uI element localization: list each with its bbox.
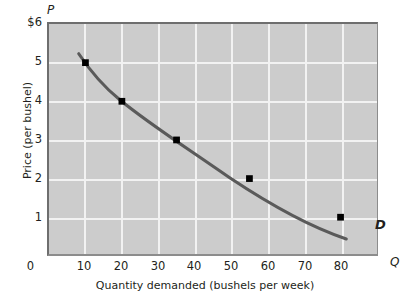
x-tick-label: 40 bbox=[187, 261, 202, 273]
data-point bbox=[173, 137, 180, 144]
x-tick-label: 60 bbox=[261, 261, 276, 273]
x-tick-label: 80 bbox=[334, 261, 349, 273]
x-tick-label: 20 bbox=[114, 261, 129, 273]
demand-curve-figure: P Q $6 5 4 3 2 1 0 10 20 30 40 50 60 70 … bbox=[0, 0, 410, 299]
x-tick-label: 50 bbox=[224, 261, 239, 273]
demand-curve-svg bbox=[49, 24, 377, 256]
data-point bbox=[82, 59, 89, 66]
y-axis-symbol: P bbox=[47, 3, 54, 17]
y-axis-title: Price (per bushel) bbox=[21, 56, 34, 206]
x-axis-symbol: Q bbox=[390, 255, 399, 269]
x-axis-title: Quantity demanded (bushels per week) bbox=[0, 279, 410, 292]
y-tick-label: 4 bbox=[35, 95, 42, 107]
demand-curve-label: D bbox=[375, 217, 386, 232]
y-tick-label: 5 bbox=[35, 56, 42, 68]
x-tick-label: 10 bbox=[77, 261, 92, 273]
y-tick-label: 0 bbox=[27, 261, 34, 273]
x-tick-label: 70 bbox=[298, 261, 313, 273]
data-point bbox=[246, 175, 253, 182]
data-point bbox=[119, 98, 126, 105]
x-tick-label: 30 bbox=[151, 261, 166, 273]
y-tick-label: $6 bbox=[27, 17, 42, 29]
demand-curve-path bbox=[79, 54, 347, 239]
data-points bbox=[82, 59, 344, 220]
data-point bbox=[337, 214, 344, 221]
y-tick-label: 3 bbox=[35, 134, 42, 146]
y-tick-label: 1 bbox=[35, 212, 42, 224]
y-tick-label: 2 bbox=[35, 173, 42, 185]
plot-area bbox=[47, 22, 378, 256]
